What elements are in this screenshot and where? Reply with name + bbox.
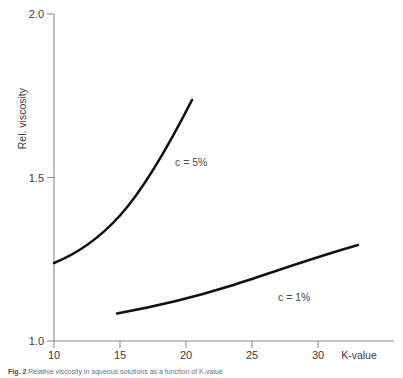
x-tick-label-20: 20 [180,349,192,361]
y-tick-label-2-0: 2.0 [29,8,44,20]
x-tick-label-30: 30 [312,349,324,361]
series-label-c-5-percent: c = 5% [175,156,207,168]
y-tick-label-1-5: 1.5 [29,172,44,184]
y-tick-label-1-0: 1.0 [29,335,44,347]
y-axis-title: Rel. viscosity [16,87,28,149]
x-tick-label-25: 25 [246,349,258,361]
curve-c-1-percent [117,245,358,314]
series-label-c-1-percent: c = 1% [278,291,310,303]
x-tick-label-10: 10 [48,349,60,361]
figure-container: 2.0 1.5 1.0 10 15 20 25 30 K-value Rel. … [0,0,403,378]
viscosity-chart: 2.0 1.5 1.0 10 15 20 25 30 K-value Rel. … [0,0,403,378]
figure-caption-body: Relative viscosity in aqueous solutions … [28,368,223,375]
curve-c-5-percent [54,100,192,263]
x-tick-label-15: 15 [114,349,126,361]
x-axis-title: K-value [341,349,377,361]
figure-caption: Fig. 2 Relative viscosity in aqueous sol… [8,367,403,378]
figure-caption-prefix: Fig. 2 [8,368,26,375]
